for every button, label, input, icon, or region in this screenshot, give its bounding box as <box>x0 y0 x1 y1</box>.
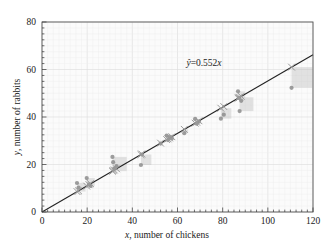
y-tick-label: 0 <box>31 207 36 217</box>
x-tick-label: 20 <box>82 216 92 226</box>
chart-figure: 020406080100120020406080 x, number of ch… <box>0 0 334 249</box>
y-tick-label: 40 <box>27 112 37 122</box>
x-tick-label: 0 <box>40 216 45 226</box>
x-tick-label: 60 <box>173 216 183 226</box>
y-tick-label: 80 <box>27 17 37 27</box>
y-tick-label: 60 <box>27 65 37 75</box>
y-tick-label: 20 <box>27 160 37 170</box>
x-tick-label: 100 <box>261 216 276 226</box>
x-tick-label: 40 <box>128 216 138 226</box>
scatter-plot: 020406080100120020406080 <box>0 0 334 249</box>
x-tick-label: 80 <box>218 216 228 226</box>
x-tick-label: 120 <box>306 216 321 226</box>
